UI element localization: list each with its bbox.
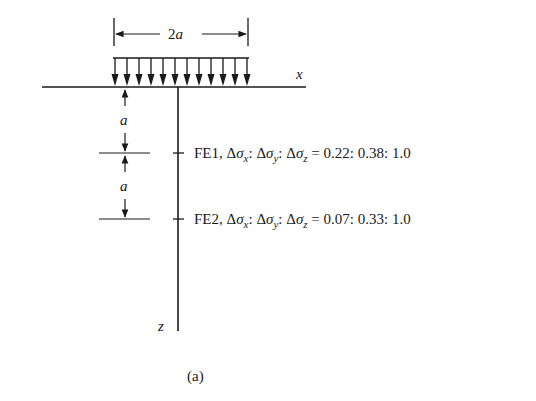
load-arrowhead-icon (244, 74, 251, 86)
load-arrowhead-icon (136, 74, 143, 86)
stress-diagram: 2a x z a a FE1, Δσx: Δσy: Δσz = 0.22: 0.… (0, 0, 536, 401)
depth-label-1: a (120, 112, 128, 128)
z-axis-label: z (157, 318, 164, 334)
depth-label-2: a (120, 178, 128, 194)
load-arrowhead-icon (232, 74, 239, 86)
load-arrowhead-icon (220, 74, 227, 86)
load-arrowhead-icon (196, 74, 203, 86)
load-arrowhead-icon (148, 74, 155, 86)
load-arrowhead-icon (208, 74, 215, 86)
load-width-dimension: 2a (114, 18, 248, 46)
load-arrowhead-icon (172, 74, 179, 86)
fe2-stress-ratio: FE2, Δσx: Δσy: Δσz = 0.07: 0.33: 1.0 (194, 211, 411, 230)
figure-caption: (a) (187, 368, 204, 385)
fe1-stress-ratio: FE1, Δσx: Δσy: Δσz = 0.22: 0.38: 1.0 (194, 145, 411, 164)
load-arrowhead-icon (184, 74, 191, 86)
load-arrowhead-icon (124, 74, 131, 86)
load-arrowhead-icon (160, 74, 167, 86)
load-arrowhead-icon (112, 74, 119, 86)
depth-dimensions: a a (99, 90, 150, 219)
load-width-label: 2a (168, 26, 183, 42)
distributed-load (112, 58, 251, 86)
x-axis-label: x (295, 66, 303, 82)
